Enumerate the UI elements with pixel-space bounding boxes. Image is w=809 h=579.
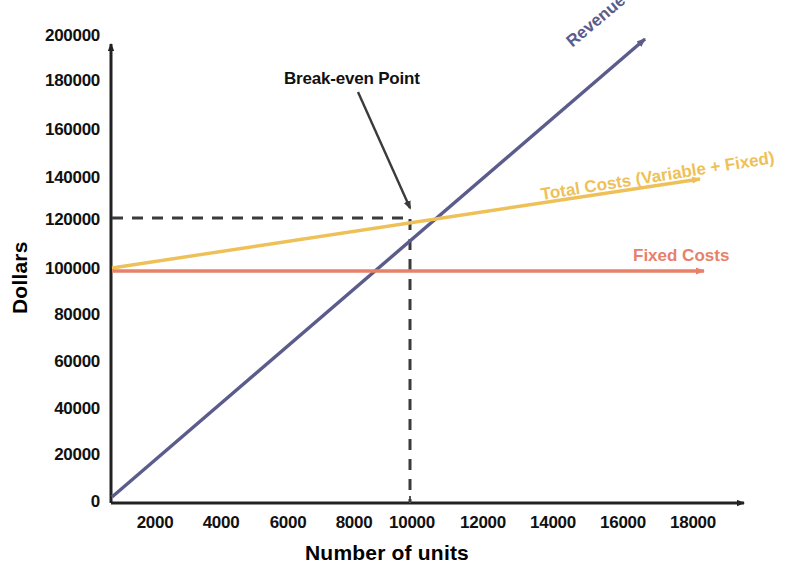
y-tick-0: 0 xyxy=(0,492,100,512)
breakeven-annotation-arrow xyxy=(358,92,410,208)
y-tick-20000: 20000 xyxy=(0,445,100,465)
revenue-line xyxy=(112,39,645,497)
y-tick-200000: 200000 xyxy=(0,26,100,46)
y-tick-180000: 180000 xyxy=(0,71,100,91)
x-tick-14000: 14000 xyxy=(513,513,593,533)
x-axis-title: Number of units xyxy=(305,541,469,565)
breakeven-point-annotation: Break-even Point xyxy=(284,69,420,89)
x-tick-18000: 18000 xyxy=(653,513,733,533)
break-even-chart: 200000 180000 160000 140000 120000 10000… xyxy=(0,0,809,579)
y-tick-160000: 160000 xyxy=(0,120,100,140)
y-tick-40000: 40000 xyxy=(0,399,100,419)
y-tick-120000: 120000 xyxy=(0,210,100,230)
x-tick-10000: 10000 xyxy=(372,513,452,533)
x-tick-12000: 12000 xyxy=(443,513,523,533)
y-axis-title: Dollars xyxy=(8,241,32,314)
fixed-costs-series-label: Fixed Costs xyxy=(633,246,729,266)
y-tick-60000: 60000 xyxy=(0,352,100,372)
x-tick-16000: 16000 xyxy=(583,513,663,533)
y-tick-140000: 140000 xyxy=(0,168,100,188)
